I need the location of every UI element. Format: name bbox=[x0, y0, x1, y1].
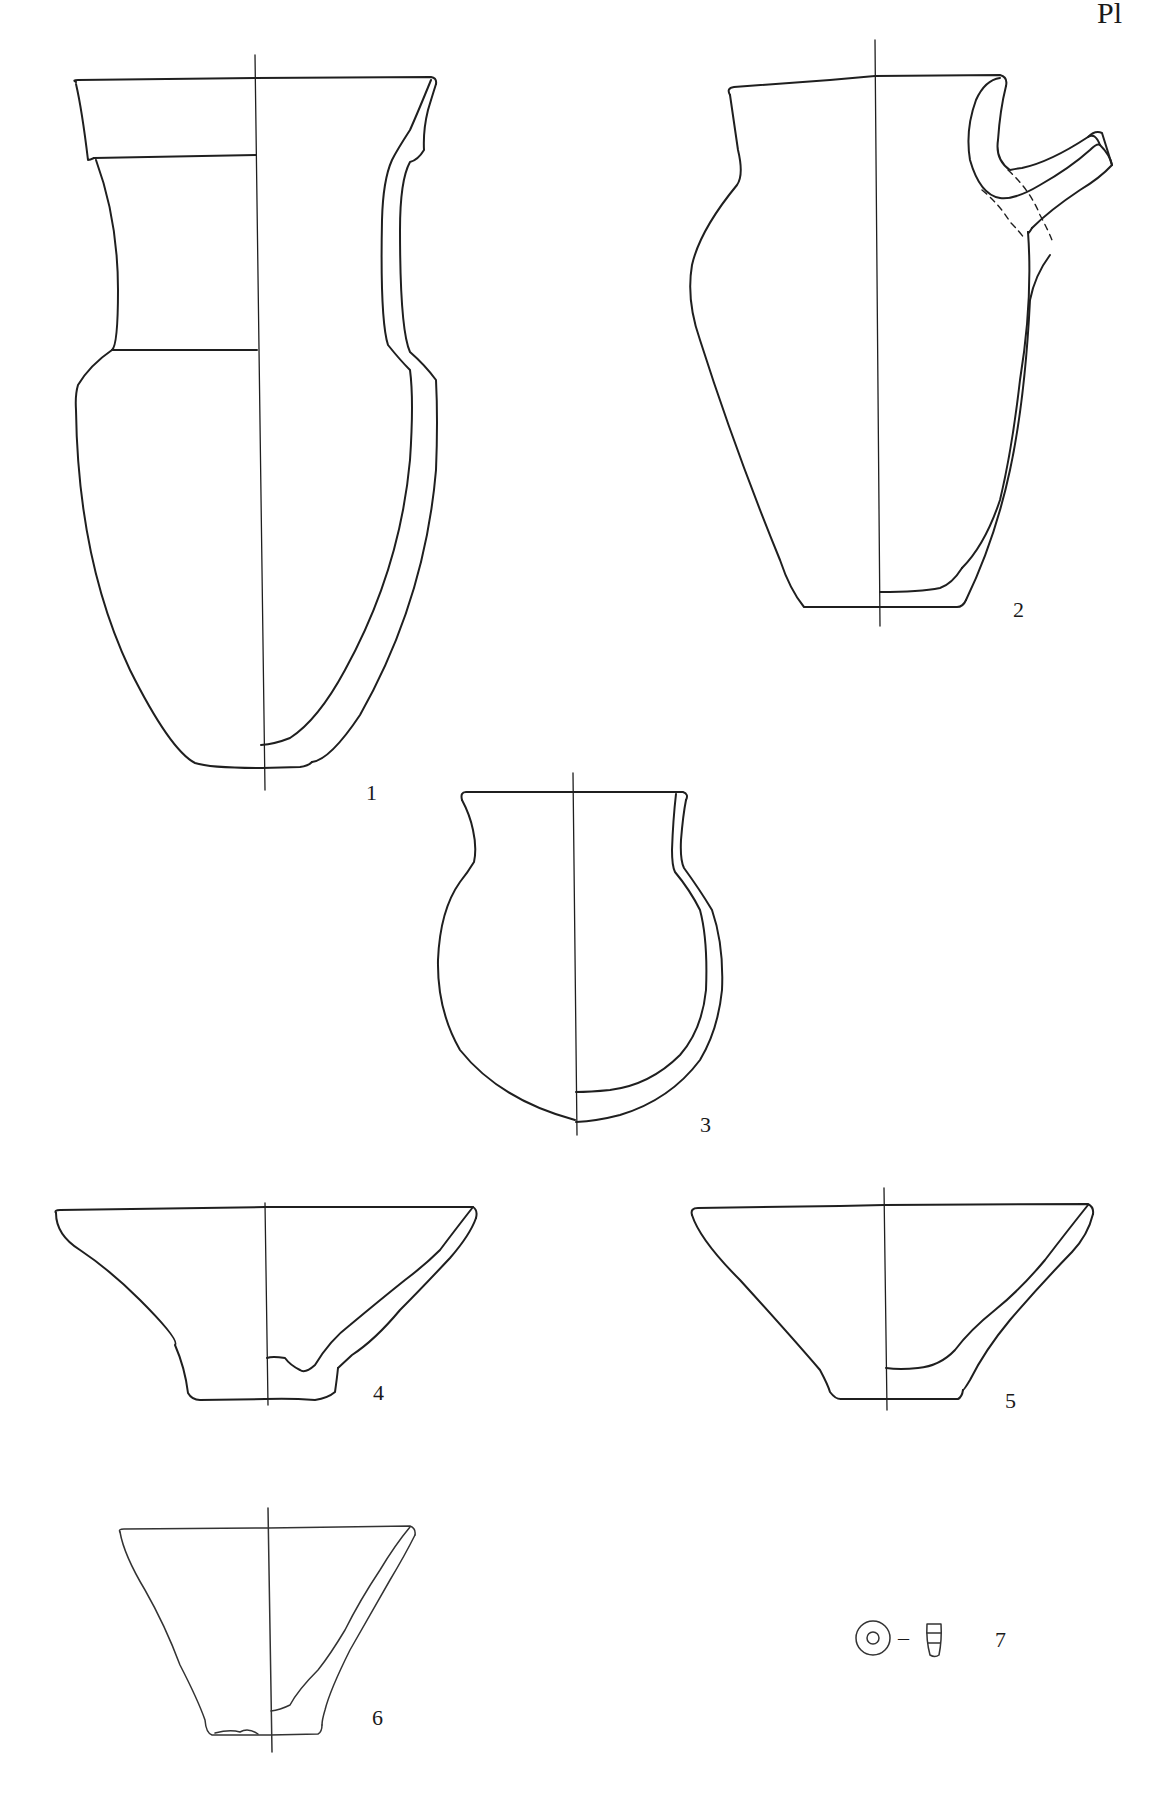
vessel-3-drawing bbox=[438, 773, 722, 1135]
vessel-1-drawing bbox=[74, 55, 437, 790]
pottery-drawings bbox=[0, 0, 1166, 1807]
figure-label-3: 3 bbox=[700, 1112, 711, 1138]
figure-label-6: 6 bbox=[372, 1705, 383, 1731]
object-7-separator: – bbox=[898, 1625, 909, 1651]
figure-label-7: 7 bbox=[995, 1627, 1006, 1653]
figure-label-5: 5 bbox=[1005, 1388, 1016, 1414]
figure-label-4: 4 bbox=[373, 1380, 384, 1406]
figure-label-2: 2 bbox=[1013, 597, 1024, 623]
vessel-6-drawing bbox=[120, 1508, 416, 1752]
vessel-4-drawing bbox=[56, 1203, 477, 1405]
vessel-2-drawing bbox=[690, 40, 1112, 626]
figure-label-1: 1 bbox=[366, 780, 377, 806]
vessel-5-drawing bbox=[692, 1188, 1094, 1410]
